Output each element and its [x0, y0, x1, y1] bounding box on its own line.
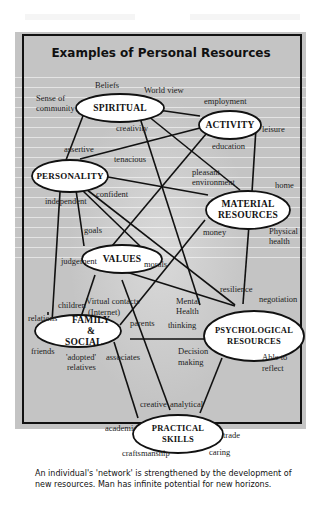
node-practical-skills: PRACTICAL SKILLS — [133, 421, 223, 447]
label-creativity: creativity — [116, 123, 148, 133]
node-personality: PERSONALITY — [32, 169, 108, 183]
label-independent: independent — [45, 196, 87, 206]
label-judgement: judgement — [61, 256, 97, 266]
label-relatives: relatives — [67, 362, 96, 372]
label-pleasant: pleasant — [192, 167, 220, 177]
node-psychological-resources: PSYCHOLOGICAL RESOURCES — [204, 322, 304, 350]
label-community: community — [36, 103, 76, 113]
label-thinking: thinking — [168, 320, 196, 330]
node-label: SKILLS — [162, 434, 194, 445]
label-tenacious: tenacious — [114, 154, 146, 164]
label-morals: morals — [144, 259, 167, 269]
label-virtual-contacts: Virtual contacts — [86, 296, 140, 306]
label-home: home — [275, 180, 294, 190]
label-creative: creative — [140, 399, 167, 409]
label-associates: associates — [106, 352, 140, 362]
label-education: education — [212, 141, 245, 151]
label-relations: relations — [28, 313, 57, 323]
label-caring: caring — [209, 447, 230, 457]
label-resilience: resilience — [220, 284, 253, 294]
label-employment: employment — [204, 96, 247, 106]
diagram-caption: An individual's 'network' is strengthene… — [35, 468, 297, 490]
label-parents: parents — [130, 318, 155, 328]
label-mental-health: Health — [176, 306, 199, 316]
label-children: children — [58, 300, 86, 310]
label-reflect: reflect — [262, 363, 284, 373]
label-assertive: assertive — [64, 144, 94, 154]
node-label: PERSONALITY — [36, 171, 103, 182]
node-label: PRACTICAL — [152, 423, 204, 434]
label-leisure: leisure — [262, 124, 285, 134]
label-beliefs: Beliefs — [95, 80, 119, 90]
node-material-resources: MATERIAL RESOURCES — [206, 194, 290, 226]
node-label: RESOURCES — [227, 336, 281, 347]
label-mental: Mental — [176, 296, 200, 306]
label-trade: trade — [223, 430, 240, 440]
node-label: SPIRITUAL — [93, 103, 147, 114]
label-sense-of: Sense of — [36, 93, 65, 103]
node-spiritual: SPIRITUAL — [76, 101, 164, 115]
node-activity: ACTIVITY — [199, 118, 261, 132]
label-health: health — [269, 236, 290, 246]
label-money: money — [203, 227, 226, 237]
label-internet: (Internet) — [88, 307, 120, 317]
label-confident: confident — [96, 189, 128, 199]
label-making: making — [178, 357, 204, 367]
label-world-view: World view — [144, 85, 184, 95]
node-label: VALUES — [103, 254, 142, 265]
label-friends: friends — [31, 346, 55, 356]
label-goals: goals — [84, 225, 102, 235]
label-able-to: Able to — [262, 352, 287, 362]
node-label: PSYCHOLOGICAL — [215, 325, 293, 336]
label-decision: Decision — [178, 346, 208, 356]
label-environment: environment — [192, 177, 235, 187]
label-physical: Physical — [269, 226, 298, 236]
node-label: MATERIAL — [221, 199, 274, 210]
label-analytical: analytical — [170, 399, 203, 409]
label-negotiation: negotiation — [259, 294, 297, 304]
label-craftsmanship: craftsmanship — [122, 448, 170, 458]
node-label: RESOURCES — [218, 210, 278, 221]
node-label: ACTIVITY — [205, 120, 254, 131]
label-adopted: 'adopted' — [66, 352, 96, 362]
label-academic: academic — [105, 423, 135, 433]
